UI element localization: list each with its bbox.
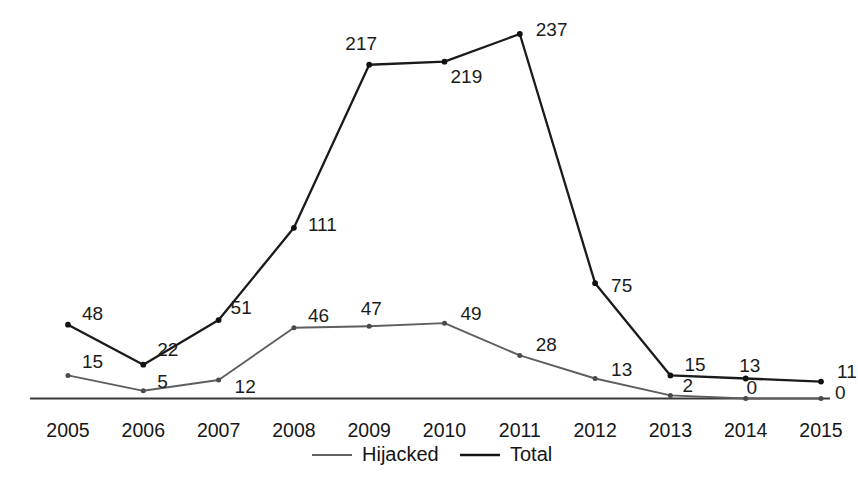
data-point-total-2010[interactable] <box>442 59 448 65</box>
x-tick-label-2007: 2007 <box>197 419 240 441</box>
series-markers-hijacked <box>66 321 824 401</box>
data-point-total-2008[interactable] <box>291 225 297 231</box>
legend-label-total: Total <box>510 443 552 465</box>
series-line-hijacked <box>68 323 821 398</box>
series-value-labels-hijacked: 155124647492813200 <box>82 298 846 402</box>
line-chart-plot: 155124647492813200 482251111217219237751… <box>0 0 858 490</box>
value-label-hijacked-2015: 0 <box>835 382 846 403</box>
x-tick-label-2013: 2013 <box>649 419 692 441</box>
x-tick-label-2010: 2010 <box>423 419 467 441</box>
value-label-hijacked-2005: 15 <box>82 351 103 372</box>
value-label-total-2013: 15 <box>684 354 705 375</box>
value-label-total-2012: 75 <box>611 275 632 296</box>
value-label-total-2007: 51 <box>231 297 252 318</box>
value-label-total-2011: 237 <box>536 19 568 40</box>
series-value-labels-total: 48225111121721923775151311 <box>82 19 857 382</box>
value-label-hijacked-2009: 47 <box>361 298 382 319</box>
data-point-hijacked-2006[interactable] <box>141 388 146 393</box>
data-point-total-2013[interactable] <box>668 373 674 379</box>
data-point-hijacked-2013[interactable] <box>668 393 673 398</box>
x-tick-label-2005: 2005 <box>46 419 90 441</box>
value-label-hijacked-2012: 13 <box>611 359 632 380</box>
chart-container: 155124647492813200 482251111217219237751… <box>0 0 858 490</box>
value-label-hijacked-2007: 12 <box>235 376 256 397</box>
x-tick-label-2015: 2015 <box>799 419 843 441</box>
x-tick-label-2006: 2006 <box>122 419 165 441</box>
series-line-total <box>68 34 821 382</box>
legend-item-total[interactable]: Total <box>460 443 552 465</box>
value-label-total-2014: 13 <box>739 355 760 376</box>
value-label-hijacked-2010: 49 <box>461 303 482 324</box>
data-point-hijacked-2008[interactable] <box>291 325 296 330</box>
x-tick-label-2014: 2014 <box>724 419 768 441</box>
value-label-hijacked-2013: 2 <box>682 375 693 396</box>
chart-legend: Hijacked Total <box>312 443 552 465</box>
x-tick-label-2008: 2008 <box>272 419 315 441</box>
data-point-hijacked-2012[interactable] <box>593 376 598 381</box>
data-point-hijacked-2005[interactable] <box>66 373 71 378</box>
x-axis-tick-labels: 2005200620072008200920102011201220132014… <box>46 419 843 441</box>
data-point-total-2007[interactable] <box>216 317 222 323</box>
data-point-hijacked-2009[interactable] <box>367 324 372 329</box>
data-point-total-2005[interactable] <box>65 322 71 328</box>
value-label-total-2009: 217 <box>345 33 377 54</box>
value-label-total-2008: 111 <box>308 214 337 235</box>
data-point-hijacked-2007[interactable] <box>216 378 221 383</box>
value-label-total-2010: 219 <box>451 66 483 87</box>
x-tick-label-2011: 2011 <box>499 419 541 441</box>
data-point-total-2015[interactable] <box>818 379 824 385</box>
data-point-total-2009[interactable] <box>366 62 372 68</box>
data-point-total-2006[interactable] <box>140 362 146 368</box>
x-tick-label-2012: 2012 <box>573 419 616 441</box>
value-label-hijacked-2008: 46 <box>308 305 329 326</box>
data-point-hijacked-2010[interactable] <box>442 321 447 326</box>
value-label-hijacked-2011: 28 <box>536 334 557 355</box>
data-point-total-2012[interactable] <box>592 280 598 286</box>
x-tick-label-2009: 2009 <box>348 419 391 441</box>
value-label-total-2015: 11 <box>837 361 857 382</box>
legend-label-hijacked: Hijacked <box>362 443 439 465</box>
data-point-hijacked-2015[interactable] <box>819 396 824 401</box>
data-point-hijacked-2011[interactable] <box>517 353 522 358</box>
value-label-hijacked-2006: 5 <box>157 371 168 392</box>
value-label-total-2006: 22 <box>157 339 178 360</box>
value-label-total-2005: 48 <box>82 303 103 324</box>
legend-item-hijacked[interactable]: Hijacked <box>312 443 439 465</box>
data-point-total-2011[interactable] <box>517 31 523 37</box>
series-markers-total <box>65 31 824 384</box>
value-label-hijacked-2014: 0 <box>746 377 757 398</box>
